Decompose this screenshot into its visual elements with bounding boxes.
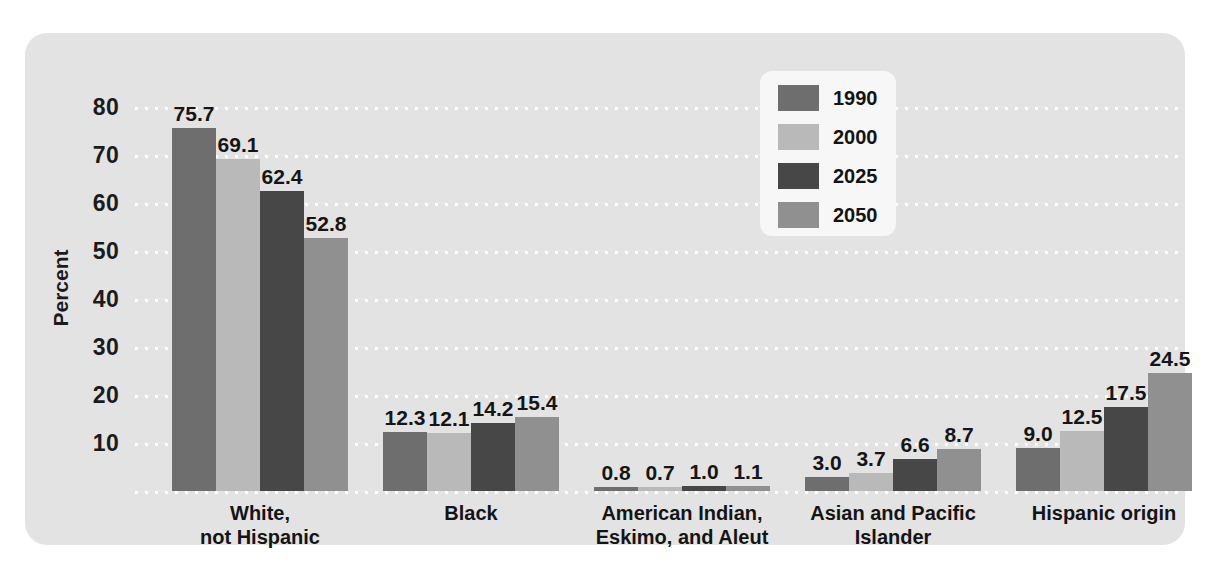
category-label-line: Hispanic origin	[964, 501, 1206, 525]
legend: 1990200020252050	[760, 71, 896, 236]
bar-value-label: 17.5	[1106, 381, 1147, 405]
y-tick-50: 50	[93, 238, 119, 265]
bar-2000	[849, 473, 893, 491]
bar-2050	[1148, 373, 1192, 491]
y-tick-10: 10	[93, 430, 119, 457]
bar-item: 8.7	[937, 449, 981, 491]
bar-item: 62.4	[260, 191, 304, 491]
legend-swatch-1990	[778, 85, 819, 111]
bar-2025	[893, 459, 937, 491]
bar-item: 75.7	[172, 128, 216, 491]
bar-value-label: 14.2	[473, 397, 514, 421]
bar-item: 14.2	[471, 423, 515, 491]
bar-2000	[638, 487, 682, 491]
bar-item: 24.5	[1148, 373, 1192, 491]
bar-value-label: 69.1	[218, 133, 259, 157]
bar-2000	[1060, 431, 1104, 491]
legend-swatch-2000	[778, 124, 819, 150]
bar-1990	[594, 487, 638, 491]
bar-2050	[937, 449, 981, 491]
bar-group: 12.312.114.215.4	[383, 91, 559, 491]
bar-value-label: 0.8	[601, 461, 630, 485]
bar-2025	[471, 423, 515, 491]
bar-value-label: 62.4	[262, 165, 303, 189]
chart-figure: Percent 8070605040302010 75.769.162.452.…	[0, 0, 1206, 571]
bar-2025	[260, 191, 304, 491]
bar-item: 3.7	[849, 473, 893, 491]
bar-value-label: 12.3	[385, 406, 426, 430]
bar-item: 1.0	[682, 486, 726, 491]
bar-value-label: 6.6	[900, 433, 929, 457]
bar-value-label: 12.5	[1062, 405, 1103, 429]
bar-group: 9.012.517.524.5	[1016, 91, 1192, 491]
bar-value-label: 3.0	[812, 451, 841, 475]
legend-label-2000: 2000	[833, 126, 878, 149]
category-label-line: Islander	[753, 525, 1033, 549]
y-tick-30: 30	[93, 334, 119, 361]
bar-1990	[383, 432, 427, 491]
bar-value-label: 3.7	[856, 447, 885, 471]
bar-value-label: 12.1	[429, 407, 470, 431]
y-tick-70: 70	[93, 142, 119, 169]
bar-2025	[1104, 407, 1148, 491]
bar-2050	[726, 486, 770, 491]
legend-swatch-2050	[778, 202, 819, 228]
bar-item: 6.6	[893, 459, 937, 491]
bar-2000	[427, 433, 471, 491]
legend-item-2050[interactable]: 2050	[778, 202, 896, 228]
bar-value-label: 1.1	[733, 460, 762, 484]
legend-item-2025[interactable]: 2025	[778, 163, 896, 189]
bar-value-label: 52.8	[306, 212, 347, 236]
bar-2050	[515, 417, 559, 491]
gridline-baseline	[135, 491, 1190, 494]
y-tick-80: 80	[93, 94, 119, 121]
bar-item: 69.1	[216, 159, 260, 491]
category-label: Hispanic origin	[964, 501, 1206, 525]
y-axis-title: Percent	[49, 249, 73, 326]
bar-1990	[805, 477, 849, 491]
bar-item: 3.0	[805, 477, 849, 491]
bar-value-label: 15.4	[517, 391, 558, 415]
bar-item: 1.1	[726, 486, 770, 491]
category-label-line: not Hispanic	[120, 525, 400, 549]
bar-value-label: 9.0	[1023, 422, 1052, 446]
legend-item-2000[interactable]: 2000	[778, 124, 896, 150]
bar-item: 17.5	[1104, 407, 1148, 491]
legend-label-2050: 2050	[833, 204, 878, 227]
bar-item: 9.0	[1016, 448, 1060, 491]
bar-value-label: 1.0	[689, 460, 718, 484]
bar-item: 12.1	[427, 433, 471, 491]
y-tick-60: 60	[93, 190, 119, 217]
bar-item: 52.8	[304, 238, 348, 491]
bar-value-label: 24.5	[1150, 347, 1191, 371]
bar-item: 0.8	[594, 487, 638, 491]
legend-label-1990: 1990	[833, 87, 878, 110]
bar-2050	[304, 238, 348, 491]
y-axis: Percent 8070605040302010	[25, 33, 135, 545]
bar-item: 12.5	[1060, 431, 1104, 491]
bar-value-label: 0.7	[645, 461, 674, 485]
bar-group: 0.80.71.01.1	[594, 91, 770, 491]
bar-2000	[216, 159, 260, 491]
bar-item: 12.3	[383, 432, 427, 491]
bar-1990	[172, 128, 216, 491]
bar-group: 75.769.162.452.8	[172, 91, 348, 491]
bar-item: 15.4	[515, 417, 559, 491]
bar-1990	[1016, 448, 1060, 491]
bar-2025	[682, 486, 726, 491]
legend-item-1990[interactable]: 1990	[778, 85, 896, 111]
legend-swatch-2025	[778, 163, 819, 189]
plot-area: 75.769.162.452.812.312.114.215.40.80.71.…	[135, 91, 1190, 491]
y-tick-20: 20	[93, 382, 119, 409]
bar-value-label: 75.7	[174, 102, 215, 126]
bar-value-label: 8.7	[944, 423, 973, 447]
y-tick-40: 40	[93, 286, 119, 313]
legend-label-2025: 2025	[833, 165, 878, 188]
chart-panel: Percent 8070605040302010 75.769.162.452.…	[25, 33, 1185, 545]
bar-item: 0.7	[638, 487, 682, 491]
